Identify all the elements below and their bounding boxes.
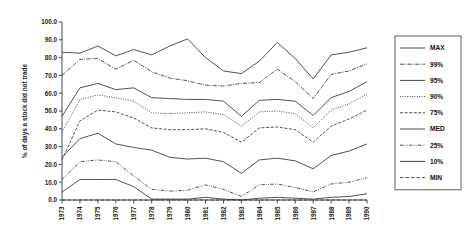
x-tick-label: 1976 [112, 206, 119, 221]
series-line-10pct [62, 180, 367, 200]
legend-label-90pct: 90% [430, 93, 443, 100]
y-tick-label: 40.0 [45, 125, 58, 132]
legend-label-99pct: 99% [430, 61, 443, 68]
series-line-max [62, 39, 367, 79]
x-tick-label: 1986 [292, 206, 299, 221]
x-tick-label: 1983 [238, 206, 245, 221]
chart-container: 0.010.020.030.040.050.060.070.080.090.01… [0, 0, 467, 240]
x-tick-label: 1988 [328, 206, 335, 221]
x-tick-label: 1978 [148, 206, 155, 221]
legend-label-25pct: 25% [430, 142, 443, 149]
legend-label-75pct: 75% [430, 109, 443, 116]
x-tick-label: 1990 [363, 206, 370, 221]
series-line-90pct [62, 94, 367, 132]
y-tick-label: 50.0 [45, 107, 58, 114]
y-tick-label: 90.0 [45, 36, 58, 43]
line-chart: 0.010.020.030.040.050.060.070.080.090.01… [0, 0, 467, 240]
y-axis-title: % of days a stock did not trade [21, 64, 29, 159]
legend-label-10pct: 10% [430, 158, 443, 165]
x-tick-label: 1980 [184, 206, 191, 221]
y-tick-label: 20.0 [45, 161, 58, 168]
x-tick-label: 1973 [58, 206, 65, 221]
x-tick-label: 1987 [310, 206, 317, 221]
legend-label-min: MIN [430, 174, 442, 181]
x-tick-label: 1981 [202, 206, 209, 221]
series-line-75pct [62, 110, 367, 160]
series-line-25pct [62, 160, 367, 196]
x-tick-label: 1975 [94, 206, 101, 221]
x-tick-label: 1977 [130, 206, 137, 221]
x-tick-label: 1985 [274, 206, 281, 221]
y-tick-label: 80.0 [45, 54, 58, 61]
legend-label-med: MED [430, 125, 445, 132]
series-line-med [62, 133, 367, 173]
y-tick-label: 100.0 [41, 18, 57, 25]
x-tick-label: 1974 [76, 206, 83, 221]
x-tick-label: 1979 [166, 206, 173, 221]
y-tick-label: 30.0 [45, 143, 58, 150]
y-tick-label: 70.0 [45, 72, 58, 79]
y-tick-label: 60.0 [45, 90, 58, 97]
legend-label-max: MAX [430, 44, 445, 51]
x-tick-label: 1982 [220, 206, 227, 221]
y-tick-label: 0.0 [48, 196, 57, 203]
legend-label-95pct: 95% [430, 77, 443, 84]
x-tick-label: 1984 [256, 206, 263, 221]
x-tick-label: 1989 [345, 206, 352, 221]
y-tick-label: 10.0 [45, 179, 58, 186]
